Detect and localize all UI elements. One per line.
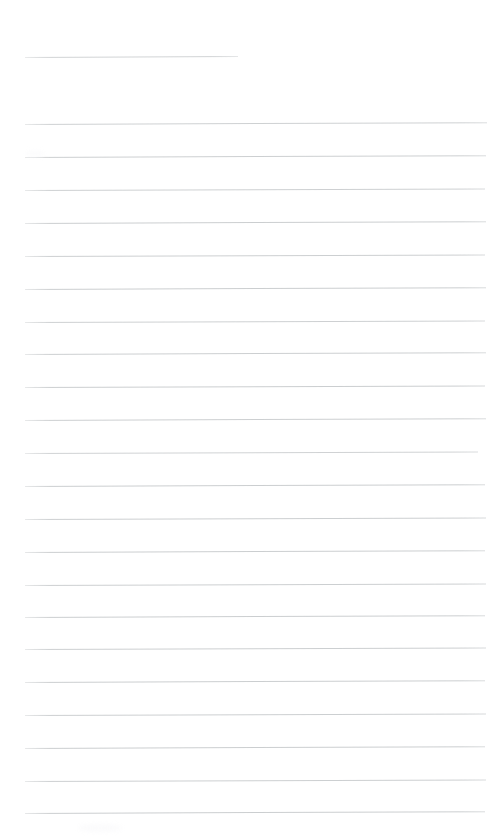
document-text-area[interactable] <box>25 124 486 813</box>
document-page <box>0 0 493 839</box>
scan-smudge-bottom-left <box>78 824 122 832</box>
heading-rule <box>25 56 238 58</box>
scan-smudge-upper-left <box>26 151 44 156</box>
